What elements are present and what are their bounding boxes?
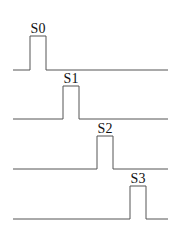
timing-diagram: S0 S1 S2 S3: [0, 0, 178, 235]
signal-s1: S1: [13, 71, 168, 119]
label-s2: S2: [98, 121, 113, 136]
signal-s0: S0: [13, 21, 168, 70]
signal-s3: S3: [13, 171, 168, 219]
label-s1: S1: [64, 71, 79, 86]
label-s3: S3: [131, 171, 146, 186]
waveform-s3: [13, 186, 168, 219]
waveform-s1: [13, 86, 168, 119]
label-s0: S0: [31, 21, 46, 36]
waveform-s2: [13, 136, 168, 169]
waveform-s0: [13, 36, 168, 70]
signal-s2: S2: [13, 121, 168, 169]
